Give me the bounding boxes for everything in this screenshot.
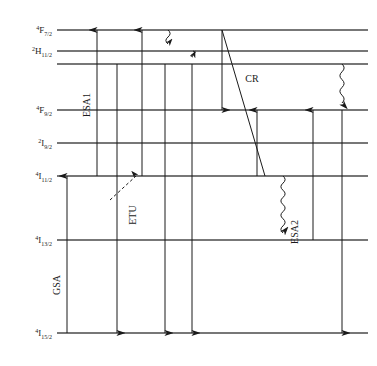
energy-level-label-I13_2: 4I13/2 (35, 235, 52, 247)
energy-level-label-F7_2: 4F7/2 (36, 25, 52, 37)
energy-level-diagram: 4F7/22H11/24F9/22I9/24I11/24I13/24I15/2 … (0, 0, 377, 366)
energy-level-label-I11_2: 4I11/2 (36, 171, 52, 183)
transition-nonrad-s32-f92 (340, 64, 344, 103)
transitions-group (67, 30, 344, 333)
energy-diagram-canvas: 4F7/22H11/24F9/22I9/24I11/24I13/24I15/2 … (0, 0, 377, 366)
transition-etu-up-diagonal (110, 176, 136, 200)
transition-nonrad-f72-h112 (166, 30, 170, 44)
energy-level-label-H11_2: 2H11/2 (32, 46, 52, 58)
process-label-esa2: ESA2 (289, 220, 300, 244)
transition-nonrad-i112-i132 (281, 176, 285, 233)
transition-nonrad-h112-s32 (191, 51, 195, 57)
process-label-esa1: ESA1 (81, 93, 92, 117)
energy-level-label-I9_2: 2I9/2 (38, 138, 52, 150)
transition-cr-diagonal (222, 30, 265, 176)
process-label-gsa: GSA (51, 274, 62, 295)
energy-level-label-F9_2: 4F9/2 (36, 105, 52, 117)
process-label-cr: CR (245, 73, 259, 84)
energy-level-label-I15_2: 4I15/2 (35, 328, 52, 340)
process-labels-group: GSAESA1ETUCRESA2 (51, 73, 300, 295)
energy-levels-group (57, 30, 368, 333)
process-label-etu: ETU (127, 205, 138, 225)
level-labels-group: 4F7/22H11/24F9/22I9/24I11/24I13/24I15/2 (32, 25, 52, 340)
